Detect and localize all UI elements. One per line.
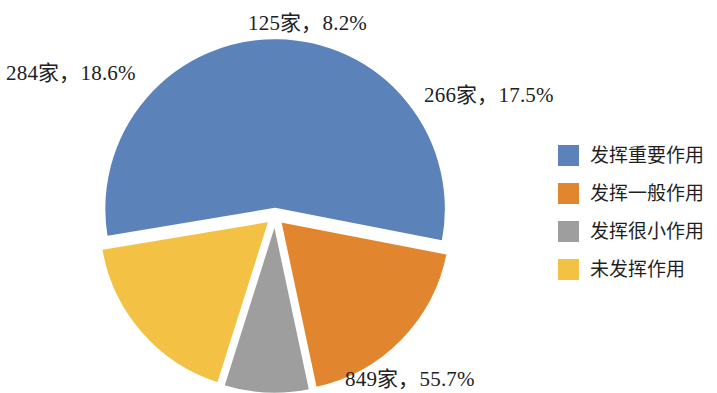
data-label-fahui-henxiao-zuoyong: 125家，8.2%	[248, 6, 367, 36]
legend-item-label: 发挥重要作用	[590, 146, 704, 165]
legend-item-fahui-zhongyao-zuoyong[interactable]: 发挥重要作用	[558, 136, 710, 174]
pie-slices	[101, 38, 448, 393]
legend-item-wei-fahui-zuoyong[interactable]: 未发挥作用	[558, 250, 710, 288]
pie-slice-fahui-zhongyao-zuoyong[interactable]	[104, 38, 446, 242]
legend-swatch-icon	[558, 259, 579, 280]
legend-item-label: 发挥很小作用	[590, 222, 704, 241]
pie-chart: 125家，8.2% 284家，18.6% 266家，17.5% 849家，55.…	[0, 0, 717, 393]
legend-item-label: 发挥一般作用	[590, 184, 704, 203]
data-label-fahui-yiban-zuoyong: 284家，18.6%	[6, 56, 136, 86]
data-label-wei-fahui-zuoyong: 266家，17.5%	[424, 78, 554, 108]
legend-item-fahui-yiban-zuoyong[interactable]: 发挥一般作用	[558, 174, 710, 212]
data-label-fahui-zhongyao-zuoyong: 849家，55.7%	[345, 362, 475, 392]
chart-legend: 发挥重要作用 发挥一般作用 发挥很小作用 未发挥作用	[558, 136, 710, 288]
legend-item-label: 未发挥作用	[590, 260, 685, 279]
legend-swatch-icon	[558, 145, 579, 166]
legend-item-fahui-henxiao-zuoyong[interactable]: 发挥很小作用	[558, 212, 710, 250]
legend-swatch-icon	[558, 221, 579, 242]
legend-swatch-icon	[558, 183, 579, 204]
